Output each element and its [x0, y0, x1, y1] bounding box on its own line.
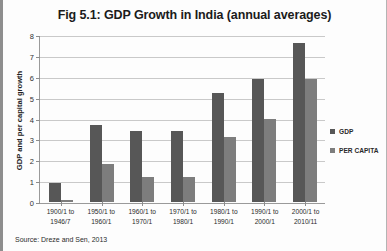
- x-axis-tick-mark: [142, 202, 143, 206]
- y-axis-tick-mark: [36, 36, 40, 37]
- x-axis-tick-label-line: 1970/1: [122, 217, 163, 227]
- bar-group: [244, 36, 285, 202]
- bar-group: [41, 36, 82, 202]
- y-axis-tick-label: 3: [30, 136, 34, 145]
- bar-group: [122, 36, 163, 202]
- x-axis-tick-label: 1960/1 to1970/1: [122, 207, 163, 227]
- y-axis-tick-mark: [36, 161, 40, 162]
- y-axis-title: GDP and per capital growth: [13, 36, 27, 204]
- x-axis-tick-label: 2000/1 to2010/11: [285, 207, 326, 227]
- bar-per-capita: [224, 137, 236, 202]
- x-axis-labels: 1900/1 to1946/71950/1 to1960/11960/1 to1…: [40, 207, 326, 227]
- bar-gdp: [130, 131, 142, 202]
- y-axis-tick-label: 6: [30, 73, 34, 82]
- bar-per-capita: [142, 177, 154, 202]
- y-axis-tick-label: 2: [30, 157, 34, 166]
- x-axis-tick-label: 1970/1 to1980/1: [163, 207, 204, 227]
- y-axis-tick-mark: [36, 99, 40, 100]
- legend-label: PER CAPITA: [339, 147, 378, 154]
- plot-area: 012345678: [39, 36, 325, 204]
- bar-per-capita: [61, 200, 73, 202]
- figure-container: Fig 5.1: GDP Growth in India (annual ave…: [0, 0, 387, 251]
- x-axis-tick-label-line: 1980/1 to: [203, 207, 244, 217]
- x-axis-tick-label-line: 1946/7: [40, 217, 81, 227]
- bar-per-capita: [264, 119, 276, 203]
- y-axis-tick-mark: [36, 78, 40, 79]
- x-axis-tick-mark: [102, 202, 103, 206]
- bar-gdp: [90, 125, 102, 202]
- x-axis-tick-label-line: 1980/1: [163, 217, 204, 227]
- y-axis-tick-mark: [36, 182, 40, 183]
- x-axis-tick-label: 1900/1 to1946/7: [40, 207, 81, 227]
- bar-per-capita: [305, 79, 317, 202]
- bar-gdp: [212, 93, 224, 202]
- x-axis-tick-label: 1980/1 to1990/1: [203, 207, 244, 227]
- x-axis-tick-mark: [264, 202, 265, 206]
- x-axis-tick-label-line: 1970/1 to: [163, 207, 204, 217]
- y-axis-tick-label: 4: [30, 115, 34, 124]
- y-axis-tick-label: 5: [30, 94, 34, 103]
- bar-gdp: [49, 183, 61, 202]
- x-axis-tick-label-line: 1990/1 to: [244, 207, 285, 217]
- bar-gdp: [252, 79, 264, 202]
- chart-legend: GDPPER CAPITA: [330, 128, 378, 166]
- bar-group: [82, 36, 123, 202]
- bars-layer: [41, 36, 325, 202]
- legend-swatch-icon: [330, 148, 335, 153]
- x-axis-tick-label: 1950/1 to1960/1: [81, 207, 122, 227]
- x-axis-tick-label-line: 2010/11: [285, 217, 326, 227]
- x-axis-tick-label: 1990/1 to2000/1: [244, 207, 285, 227]
- y-axis-tick-mark: [36, 140, 40, 141]
- y-axis-tick-mark: [36, 120, 40, 121]
- legend-item[interactable]: PER CAPITA: [330, 147, 378, 154]
- y-axis-tick-label: 0: [30, 199, 34, 208]
- x-axis-tick-label-line: 1960/1: [81, 217, 122, 227]
- source-note: Source: Dreze and Sen, 2013: [15, 236, 107, 243]
- bar-group: [203, 36, 244, 202]
- bar-gdp: [293, 43, 305, 202]
- legend-label: GDP: [339, 128, 353, 135]
- x-axis-tick-mark: [183, 202, 184, 206]
- y-axis-tick-label: 7: [30, 52, 34, 61]
- y-axis-tick-mark: [36, 57, 40, 58]
- x-axis-tick-label-line: 2000/1: [244, 217, 285, 227]
- y-axis-tick-mark: [36, 203, 40, 204]
- y-axis-title-label: GDP and per capital growth: [16, 70, 25, 169]
- x-axis-tick-mark: [61, 202, 62, 206]
- legend-item[interactable]: GDP: [330, 128, 378, 135]
- bar-per-capita: [183, 177, 195, 202]
- y-axis-tick-label: 1: [30, 178, 34, 187]
- x-axis-tick-mark: [224, 202, 225, 206]
- bar-gdp: [171, 131, 183, 202]
- legend-swatch-icon: [330, 129, 335, 134]
- x-axis-tick-label-line: 1950/1 to: [81, 207, 122, 217]
- chart-title: Fig 5.1: GDP Growth in India (annual ave…: [3, 8, 386, 22]
- bar-group: [284, 36, 325, 202]
- x-axis-tick-label-line: 1990/1: [203, 217, 244, 227]
- y-axis-tick-label: 8: [30, 32, 34, 41]
- x-axis-tick-label-line: 2000/1 to: [285, 207, 326, 217]
- bar-per-capita: [102, 164, 114, 202]
- x-axis-tick-mark: [305, 202, 306, 206]
- bar-group: [163, 36, 204, 202]
- x-axis-tick-label-line: 1900/1 to: [40, 207, 81, 217]
- x-axis-tick-label-line: 1960/1 to: [122, 207, 163, 217]
